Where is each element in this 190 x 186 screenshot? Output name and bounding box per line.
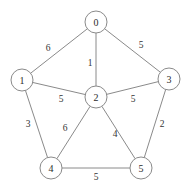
edge-weight-1-4: 3: [26, 119, 31, 129]
node-4[interactable]: 4: [40, 157, 62, 179]
edge-0-1: [31, 29, 88, 73]
edge-weight-1-2: 5: [59, 94, 64, 104]
node-label-5: 5: [139, 163, 144, 174]
node-label-4: 4: [49, 163, 54, 174]
graph-svg: 6155356425 012345: [0, 0, 190, 186]
edge-1-2: [33, 82, 86, 94]
node-0[interactable]: 0: [85, 11, 107, 33]
edge-2-5: [102, 106, 135, 158]
edge-weight-0-2: 1: [88, 58, 93, 68]
edge-weight-4-5: 5: [94, 172, 99, 182]
edge-weight-0-3: 5: [139, 40, 144, 50]
edge-weight-2-3: 5: [131, 94, 136, 104]
graph-diagram: 6155356425 012345: [0, 0, 190, 186]
edge-weight-2-5: 4: [113, 129, 118, 139]
edge-weight-0-1: 6: [46, 43, 51, 53]
node-label-0: 0: [94, 17, 99, 28]
edge-0-3: [105, 29, 161, 72]
edge-2-3: [107, 82, 159, 95]
node-label-1: 1: [20, 75, 25, 86]
node-label-2: 2: [94, 92, 99, 103]
node-label-3: 3: [167, 74, 172, 85]
node-3[interactable]: 3: [158, 68, 180, 90]
edge-weight-3-5: 2: [160, 119, 165, 129]
edge-weight-2-4: 6: [63, 123, 68, 133]
node-5[interactable]: 5: [130, 157, 152, 179]
node-2[interactable]: 2: [85, 86, 107, 108]
node-1[interactable]: 1: [11, 69, 33, 91]
